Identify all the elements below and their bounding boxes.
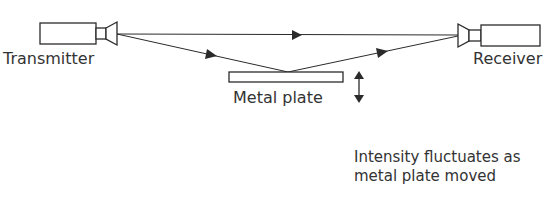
incident-beam-arrow-icon xyxy=(205,49,217,59)
transmitter-icon xyxy=(40,22,117,45)
note-line-1: Intensity fluctuates as xyxy=(354,148,521,167)
incident-beam xyxy=(117,34,288,72)
reflected-beam-arrow-icon xyxy=(376,48,388,58)
double-arrow-icon xyxy=(354,71,364,103)
observation-note: Intensity fluctuates as metal plate move… xyxy=(354,148,521,186)
plate-label: Metal plate xyxy=(233,89,323,107)
receiver-label: Receiver xyxy=(473,50,542,68)
transmitter-label: Transmitter xyxy=(3,50,94,68)
note-line-2: metal plate moved xyxy=(354,167,521,186)
reflected-beam xyxy=(288,36,458,72)
direct-beam xyxy=(117,34,458,35)
receiver-icon xyxy=(458,24,540,47)
metal-plate xyxy=(229,72,343,82)
direct-beam-arrow-icon xyxy=(292,30,302,40)
